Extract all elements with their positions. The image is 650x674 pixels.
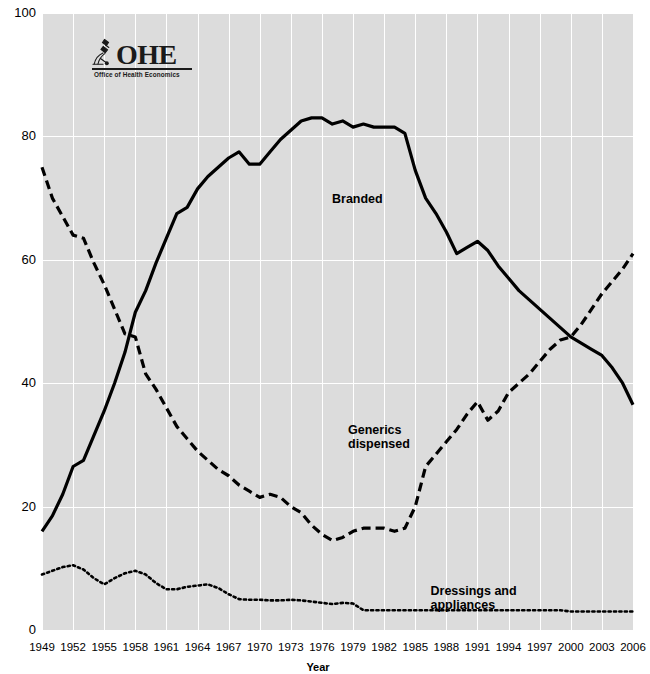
x-axis-title: Year (0, 661, 636, 673)
ohe-logo: OHE Office of Health Economics (90, 37, 194, 81)
logo-rule (92, 68, 192, 70)
logo-title: OHE (116, 39, 177, 71)
logo-subtitle: Office of Health Economics (94, 71, 180, 78)
y-tick-label-0: 0 (0, 623, 36, 636)
series-layer (42, 13, 633, 630)
y-tick-label-40: 40 (0, 376, 36, 389)
plot-area: Branded Generics dispensed Dressings and… (42, 13, 633, 630)
gridline-v-2006 (633, 13, 634, 630)
series-label-branded: Branded (332, 192, 383, 206)
x-tick-label-2006: 2006 (613, 642, 650, 654)
y-tick-label-20: 20 (0, 500, 36, 513)
y-tick-label-60: 60 (0, 253, 36, 266)
y-tick-label-80: 80 (0, 129, 36, 142)
y-tick-label-100: 100 (0, 6, 36, 19)
series-label-dressings: Dressings and appliances (431, 584, 566, 613)
series-line-1 (42, 167, 633, 540)
series-label-generics: Generics dispensed (348, 423, 410, 452)
series-line-0 (42, 118, 633, 531)
